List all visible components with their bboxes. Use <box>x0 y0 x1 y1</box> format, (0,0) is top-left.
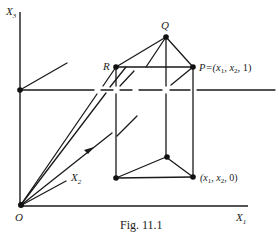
origin-rays <box>20 67 126 206</box>
x2-direction-at-height-one <box>20 63 67 90</box>
figure-caption: Fig. 11.1 <box>120 218 163 232</box>
point-R-label: R <box>102 60 110 72</box>
point-P-label: P=(x1, x2, 1) <box>198 62 252 75</box>
point-Q-label: Q <box>161 19 169 31</box>
point-base-left <box>113 175 119 181</box>
point-base-top <box>164 154 170 160</box>
x2-axis-label: X2 <box>70 171 82 186</box>
point-x3-one <box>17 87 23 93</box>
top-face <box>116 37 193 67</box>
inner-slant-lines <box>117 37 193 136</box>
point-Q <box>163 34 169 40</box>
point-R <box>113 64 119 70</box>
x3-axis-label: X3 <box>5 5 17 20</box>
point-base-label: (x1, x2, 0) <box>200 172 238 185</box>
figure-diagram: X3 X1 X2 O R Q P=(x1, x2, 1) (x1, x2, 0)… <box>0 0 279 237</box>
arrowhead-icon <box>84 147 94 154</box>
point-origin <box>18 202 24 208</box>
point-base-right <box>190 174 196 180</box>
origin-label: O <box>15 211 23 223</box>
bottom-face <box>116 157 193 178</box>
point-P <box>190 64 196 70</box>
vertical-edges <box>116 37 193 178</box>
x1-axis-label: X1 <box>235 211 246 226</box>
